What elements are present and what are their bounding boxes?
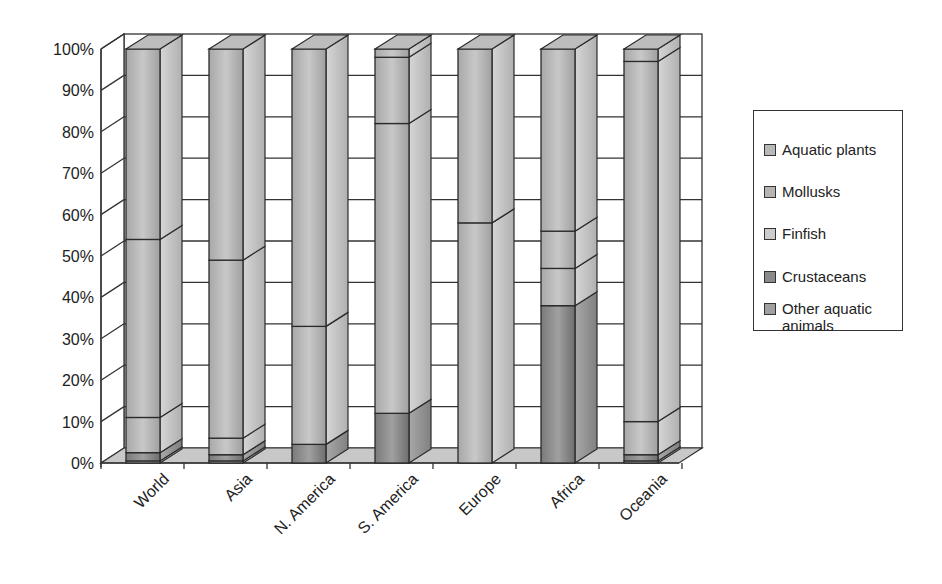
y-tick-label: 40% (62, 289, 94, 306)
bar-segment (375, 413, 409, 463)
x-tick-label: N. America (271, 470, 338, 537)
bar-segment (209, 260, 243, 438)
y-tick-label: 10% (62, 414, 94, 431)
bar-segment (292, 49, 326, 326)
bar-asia (209, 35, 265, 463)
bar-segment (375, 57, 409, 123)
bar-segment (541, 231, 575, 268)
bar-segment (292, 326, 326, 444)
x-tick-label: Oceania (616, 470, 670, 524)
y-tick-label: 0% (71, 455, 94, 472)
bar-segment (375, 124, 409, 414)
legend-item-aquatic-plants: Aquatic plants (764, 141, 900, 158)
bar-segment (624, 61, 658, 421)
bar-world (126, 35, 182, 463)
bar-segment (126, 417, 160, 452)
bar-segment (458, 49, 492, 223)
bar-segment (541, 49, 575, 231)
y-tick-label: 100% (53, 41, 94, 58)
legend-item-mollusks: Mollusks (764, 183, 900, 200)
bar-africa (541, 35, 597, 463)
x-tick-label: Europe (456, 470, 505, 519)
legend-label: Crustaceans (782, 268, 866, 285)
legend-item-other-aquatic-animals: Other aquatic animals (764, 300, 900, 334)
bar-segment (541, 268, 575, 305)
bar-segment (209, 49, 243, 260)
legend-swatch (764, 228, 776, 240)
x-tick-label: Africa (546, 470, 587, 511)
bar-segment (458, 223, 492, 463)
legend-swatch (764, 303, 776, 315)
y-tick-label: 70% (62, 165, 94, 182)
bar-segment (541, 306, 575, 463)
bar-s-america (375, 35, 431, 463)
bars (126, 35, 680, 463)
x-tick-label: S. America (354, 470, 421, 537)
y-tick-label: 50% (62, 248, 94, 265)
y-axis-labels: 0%10%20%30%40%50%60%70%80%90%100% (53, 41, 94, 472)
bar-n-america (292, 35, 348, 463)
bar-segment (624, 455, 658, 461)
y-tick-label: 80% (62, 124, 94, 141)
x-axis-labels: WorldAsiaN. AmericaS. AmericaEuropeAfric… (131, 470, 670, 537)
legend-label: Mollusks (782, 183, 840, 200)
legend: Aquatic plants Mollusks Finfish Crustace… (753, 110, 903, 331)
legend-label: Finfish (782, 225, 826, 242)
bar-europe (458, 35, 514, 463)
legend-label: Other aquatic animals (782, 300, 900, 334)
bar-segment (624, 422, 658, 455)
bar-segment (209, 438, 243, 455)
legend-swatch (764, 271, 776, 283)
legend-item-finfish: Finfish (764, 225, 900, 242)
y-tick-label: 30% (62, 331, 94, 348)
y-tick-label: 60% (62, 207, 94, 224)
x-tick-label: World (131, 470, 172, 511)
legend-swatch (764, 186, 776, 198)
bar-segment (624, 49, 658, 61)
bar-segment (209, 455, 243, 461)
y-tick-label: 90% (62, 82, 94, 99)
bar-oceania (624, 35, 680, 463)
bar-segment (126, 453, 160, 461)
legend-label: Aquatic plants (782, 141, 876, 158)
legend-item-crustaceans: Crustaceans (764, 268, 900, 285)
x-tick-label: Asia (221, 470, 255, 504)
y-tick-label: 20% (62, 372, 94, 389)
bar-segment (126, 239, 160, 417)
bar-segment (126, 49, 160, 239)
bar-segment (375, 49, 409, 57)
legend-swatch (764, 144, 776, 156)
bar-segment (292, 444, 326, 463)
